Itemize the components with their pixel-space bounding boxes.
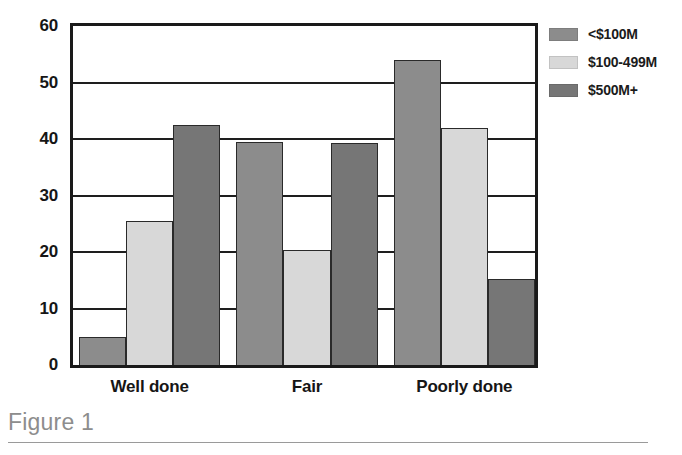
legend-item: $500M+ [549,78,679,102]
y-axis-tick-label: 40 [8,130,58,147]
x-axis-category-label: Poorly done [394,378,535,395]
bars-layer [73,26,535,365]
legend-swatch-icon [549,28,578,41]
bar [488,279,535,365]
y-axis: 0102030405060 [0,0,66,400]
figure-container: 0102030405060 Well doneFairPoorly done <… [0,0,682,455]
y-axis-tick-label: 20 [8,243,58,260]
legend-item-label: $500M+ [588,82,638,98]
bar [126,221,173,365]
y-axis-tick-label: 60 [8,17,58,34]
chart-legend: <$100M$100-499M$500M+ [549,22,679,106]
bar [173,125,220,365]
bar [283,250,330,365]
plot-area [70,23,538,368]
x-axis-category-labels: Well doneFairPoorly done [70,378,538,408]
legend-item: $100-499M [549,50,679,74]
legend-item-label: $100-499M [588,54,657,70]
caption-divider [8,442,648,443]
x-axis-category-label: Fair [236,378,377,395]
figure-caption-text: Figure 1 [8,410,94,435]
figure-caption-block: Figure 1 [8,410,674,450]
legend-item: <$100M [549,22,679,46]
bar [331,143,378,365]
x-axis-category-label: Well done [79,378,220,395]
legend-swatch-icon [549,84,578,97]
y-axis-tick-label: 0 [8,356,58,373]
bar [236,142,283,365]
legend-swatch-icon [549,56,578,69]
bar [394,60,441,365]
bar [441,128,488,365]
y-axis-tick-label: 10 [8,300,58,317]
y-axis-tick-label: 30 [8,187,58,204]
legend-item-label: <$100M [588,26,638,42]
y-axis-tick-label: 50 [8,74,58,91]
bar [79,337,126,365]
